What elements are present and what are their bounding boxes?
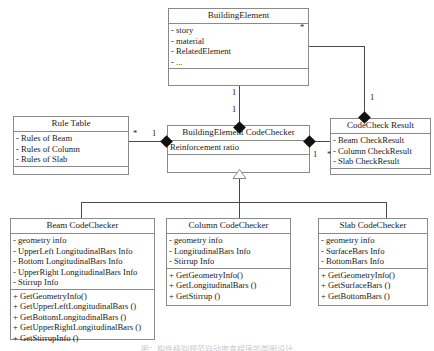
operation-row: + GetLongitudinalBars (): [167, 280, 290, 291]
edge-buildingelement-to-codecheckresult-horizontal: [309, 46, 365, 47]
attribute-row: - RelatedElement: [169, 46, 308, 57]
operations-column-codechecker: + GetGeometryInfo() + GetLongitudinalBar…: [167, 269, 290, 303]
attributes-rule-table: - Rules of Beam - Rules of Column - Rule…: [14, 132, 128, 167]
attribute-row: - geometry info: [11, 235, 154, 246]
class-title-building-element: BuildingElement: [169, 9, 308, 24]
edge-buildingelement-to-codecheckresult-vertical: [364, 46, 365, 118]
attributes-building-element: - story - material - RelatedElement - ..…: [169, 24, 308, 69]
attribute-row: - Rules of Slab: [14, 154, 128, 165]
operations-building-element: [169, 69, 308, 81]
attribute-row: Reinforcement ratio: [168, 142, 309, 153]
attribute-row: - Bottom LongitudinalBars Info: [11, 256, 154, 267]
operations-slab-codechecker: + GetGeometryInfo() + GetSurfaceBars () …: [319, 269, 427, 303]
attribute-row: - Stirrup Info: [11, 277, 154, 288]
operation-row: + GetGeometryInfo(): [11, 291, 154, 302]
operation-row: + GetStirrup (): [167, 291, 290, 302]
class-title-slab-codechecker: Slab CodeChecker: [319, 219, 427, 234]
operation-row: + GetUpperRightLongitudinalBars (): [11, 322, 154, 333]
edge-generalization-branch-column: [239, 202, 240, 218]
generalization-triangle-icon: [232, 165, 247, 183]
operation-row: + GetGeometryInfo(): [319, 270, 427, 281]
operation-row: + GetBottomBars (): [319, 291, 427, 302]
attributes-codecheck-result: - Beam CheckResult - Column CheckResult …: [331, 134, 430, 169]
attribute-row: - Rules of Beam: [14, 133, 128, 144]
class-title-codecheck-result: CodeCheck Result: [331, 119, 430, 134]
attribute-row: - SurfaceBars Info: [319, 246, 427, 257]
figure-caption: 图：构件级别规范自动审查程序的类图设计: [0, 345, 434, 351]
attributes-beam-codechecker: - geometry info - UpperLeft Longitudinal…: [11, 234, 154, 290]
attribute-row: - story: [169, 25, 308, 36]
attribute-row: - Slab CheckResult: [331, 156, 430, 167]
attribute-row: - UpperRight LongitudinalBars Info: [11, 267, 154, 278]
class-rule-table[interactable]: Rule Table - Rules of Beam - Rules of Co…: [13, 116, 129, 175]
operations-rule-table: [14, 167, 128, 179]
multiplicity-buildingelement-star: *: [300, 23, 304, 32]
uml-class-diagram: * 1 1 1 * 1 1 * BuildingElement - story …: [0, 0, 434, 351]
class-beam-codechecker[interactable]: Beam CodeChecker - geometry info - Upper…: [10, 218, 155, 340]
attribute-row: - Column CheckResult: [331, 146, 430, 157]
operations-beam-codechecker: + GetGeometryInfo() + GetUpperLeftLongit…: [11, 290, 154, 345]
operation-row: + GetStirrupInfo (): [11, 333, 154, 344]
edge-generalization-distribution: [81, 202, 386, 203]
attributes-column-codechecker: - geometry info - LongitudinalBars Info …: [167, 234, 290, 269]
multiplicity-codecheckresult-top-one: 1: [370, 93, 374, 102]
multiplicity-ruletable-star: *: [133, 129, 137, 138]
attribute-row: - Rules of Column: [14, 144, 128, 155]
class-building-element[interactable]: BuildingElement - story - material - Rel…: [168, 8, 309, 86]
class-slab-codechecker[interactable]: Slab CodeChecker - geometry info - Surfa…: [318, 218, 428, 306]
class-title-rule-table: Rule Table: [14, 117, 128, 132]
operation-row: + GetBottomLongitudinalBars (): [11, 312, 154, 323]
attribute-row: - Beam CheckResult: [331, 135, 430, 146]
multiplicity-buildingelement-bottom-one: 1: [232, 88, 236, 97]
attribute-row: - ...: [169, 57, 308, 68]
attribute-row: - BottomBars Info: [319, 256, 427, 267]
operation-row: + GetGeometryInfo(): [167, 270, 290, 281]
multiplicity-codechecker-top-one: 1: [232, 105, 236, 114]
class-title-beam-codechecker: Beam CodeChecker: [11, 219, 154, 234]
multiplicity-codechecker-left-one: 1: [152, 129, 156, 138]
edge-generalization-branch-slab: [386, 202, 387, 218]
multiplicity-codecheckresult-left-star: *: [327, 150, 331, 159]
attributes-building-element-codechecker: Reinforcement ratio: [168, 141, 309, 155]
class-codecheck-result[interactable]: CodeCheck Result - Beam CheckResult - Co…: [330, 118, 431, 175]
class-title-column-codechecker: Column CodeChecker: [167, 219, 290, 234]
multiplicity-codechecker-right-one: 1: [313, 150, 317, 159]
operations-codecheck-result: [331, 169, 430, 181]
attribute-row: - geometry info: [319, 235, 427, 246]
class-column-codechecker[interactable]: Column CodeChecker - geometry info - Lon…: [166, 218, 291, 306]
attribute-row: - material: [169, 36, 308, 47]
operation-row: + GetUpperLeftLongitudinalBars (): [11, 301, 154, 312]
operation-row: + GetSurfaceBars (): [319, 280, 427, 291]
attribute-row: - LongitudinalBars Info: [167, 246, 290, 257]
attribute-row: - geometry info: [167, 235, 290, 246]
edge-generalization-branch-beam: [81, 202, 82, 218]
attribute-row: - UpperLeft LongitudinalBars Info: [11, 246, 154, 257]
attribute-row: - Stirrup Info: [167, 256, 290, 267]
attributes-slab-codechecker: - geometry info - SurfaceBars Info - Bot…: [319, 234, 427, 269]
